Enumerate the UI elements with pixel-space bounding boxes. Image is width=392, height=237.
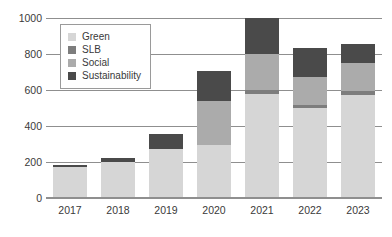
legend-label: Sustainability: [82, 70, 141, 82]
bar-segment-green[interactable]: [197, 145, 231, 198]
bar-segment-slb[interactable]: [341, 91, 375, 95]
bar-2019[interactable]: [149, 18, 183, 198]
legend-label: Green: [82, 31, 110, 43]
legend-swatch-icon: [68, 72, 76, 80]
bar-segment-green[interactable]: [293, 108, 327, 198]
x-tick-label: 2021: [250, 204, 273, 216]
bar-segment-sustainability[interactable]: [341, 44, 375, 63]
bar-segment-slb[interactable]: [245, 90, 279, 93]
bar-segment-green[interactable]: [53, 167, 87, 198]
y-tick-label: 600: [2, 84, 42, 96]
bar-segment-social[interactable]: [341, 63, 375, 91]
legend-label: SLB: [82, 44, 101, 56]
legend-swatch-icon: [68, 59, 76, 67]
bar-segment-social[interactable]: [245, 54, 279, 90]
x-tick-label: 2023: [346, 204, 369, 216]
bar-2023[interactable]: [341, 18, 375, 198]
bar-segment-sustainability[interactable]: [245, 18, 279, 54]
bar-segment-sustainability[interactable]: [149, 134, 183, 149]
legend-swatch-icon: [68, 46, 76, 54]
bar-segment-sustainability[interactable]: [53, 165, 87, 168]
legend-swatch-icon: [68, 33, 76, 41]
y-tick-label: 400: [2, 120, 42, 132]
x-axis-line: [46, 197, 382, 198]
legend-label: Social: [82, 57, 109, 69]
legend-item-green[interactable]: Green: [68, 31, 141, 43]
bar-segment-slb[interactable]: [293, 105, 327, 108]
stacked-bar-chart: 02004006008001000 2017201820192020202120…: [0, 0, 392, 237]
bar-2020[interactable]: [197, 18, 231, 198]
bar-segment-social[interactable]: [293, 77, 327, 105]
legend-item-social[interactable]: Social: [68, 57, 141, 69]
legend: GreenSLBSocialSustainability: [60, 24, 151, 89]
x-tick-label: 2018: [106, 204, 129, 216]
x-tick-label: 2017: [58, 204, 81, 216]
y-tick-label: 1000: [2, 12, 42, 24]
legend-item-sustainability[interactable]: Sustainability: [68, 70, 141, 82]
bar-segment-green[interactable]: [101, 162, 135, 198]
bar-segment-green[interactable]: [341, 95, 375, 199]
y-tick-label: 0: [2, 192, 42, 204]
x-tick-label: 2022: [298, 204, 321, 216]
bar-segment-sustainability[interactable]: [197, 71, 231, 101]
bar-segment-sustainability[interactable]: [293, 48, 327, 78]
bar-segment-sustainability[interactable]: [101, 158, 135, 162]
y-tick-label: 200: [2, 156, 42, 168]
legend-item-slb[interactable]: SLB: [68, 44, 141, 56]
bar-segment-green[interactable]: [149, 149, 183, 198]
bar-2022[interactable]: [293, 18, 327, 198]
bar-segment-green[interactable]: [245, 94, 279, 198]
y-tick-label: 800: [2, 48, 42, 60]
x-tick-label: 2020: [202, 204, 225, 216]
bar-segment-social[interactable]: [197, 101, 231, 145]
bar-2021[interactable]: [245, 18, 279, 198]
x-tick-label: 2019: [154, 204, 177, 216]
gridline-0: [46, 198, 382, 199]
